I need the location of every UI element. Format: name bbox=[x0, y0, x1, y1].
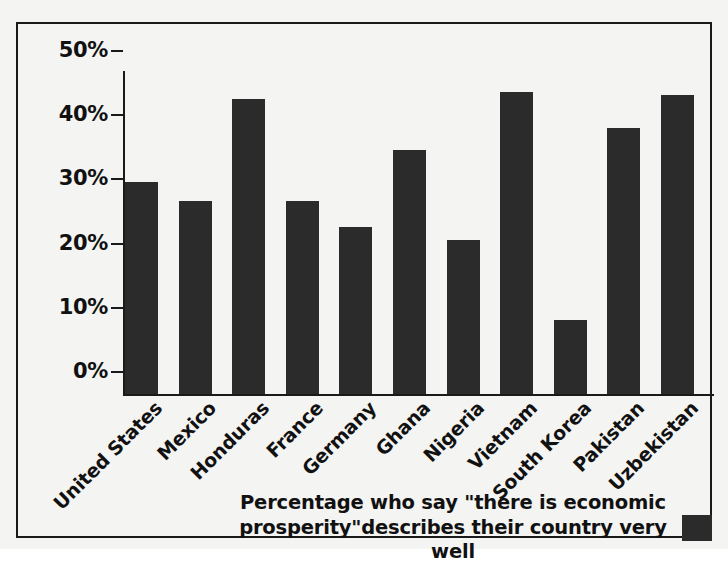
y-tick-label: 20% bbox=[22, 233, 108, 254]
bar-series bbox=[125, 73, 713, 394]
legend-label: Percentage who say "there is economic pr… bbox=[238, 491, 668, 562]
bar bbox=[607, 128, 640, 394]
legend-label-line2: prosperity"describes their country very … bbox=[239, 516, 667, 562]
y-tick-0 bbox=[111, 371, 123, 373]
bar bbox=[661, 95, 694, 394]
y-tick-30 bbox=[111, 178, 123, 180]
x-axis-labels: United StatesMexicoHondurasFranceGermany… bbox=[125, 398, 725, 498]
bar bbox=[339, 227, 372, 394]
x-axis-line bbox=[123, 394, 714, 396]
y-tick-10 bbox=[111, 307, 123, 309]
bar bbox=[393, 150, 426, 394]
y-tick-label: 40% bbox=[22, 104, 108, 125]
bar bbox=[447, 240, 480, 394]
y-tick-label: 50% bbox=[22, 40, 108, 61]
y-tick-label: 10% bbox=[22, 297, 108, 318]
bar bbox=[125, 182, 158, 394]
bar bbox=[286, 201, 319, 394]
bar bbox=[232, 99, 265, 394]
y-tick-40 bbox=[111, 114, 123, 116]
chart-legend: Percentage who say "there is economic pr… bbox=[218, 500, 712, 556]
y-tick-50 bbox=[111, 50, 123, 52]
y-tick-20 bbox=[111, 243, 123, 245]
bar bbox=[500, 92, 533, 394]
bar bbox=[554, 320, 587, 394]
legend-label-line1: Percentage who say "there is economic bbox=[240, 491, 666, 514]
bar bbox=[179, 201, 212, 394]
y-tick-label: 30% bbox=[22, 168, 108, 189]
chart-frame: 50%40%30%20%10%0% United StatesMexicoHon… bbox=[16, 22, 712, 538]
y-tick-label: 0% bbox=[22, 361, 108, 382]
legend-swatch bbox=[682, 515, 712, 541]
